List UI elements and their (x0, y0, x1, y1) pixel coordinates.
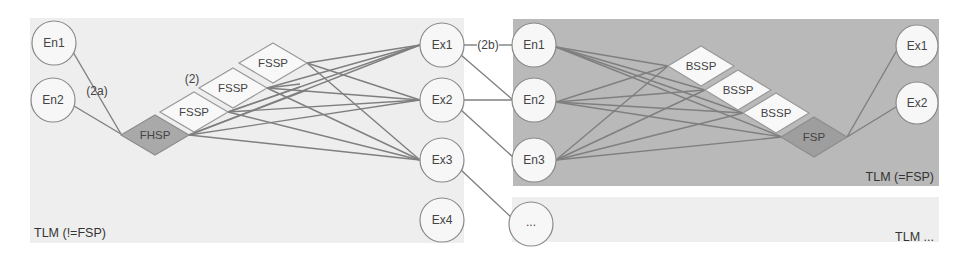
node-label: Ex2 (432, 93, 453, 107)
left-exit-node-ex4[interactable]: Ex4 (420, 198, 464, 242)
node-label: En1 (43, 36, 65, 50)
left-exit-node-ex1[interactable]: Ex1 (420, 23, 464, 67)
annotation-2: (2) (185, 72, 200, 86)
left-panel-label: TLM (!=FSP) (34, 226, 106, 240)
node-label: En3 (523, 153, 545, 167)
right-panel-label: TLM (=FSP) (866, 170, 934, 184)
node-label: ... (526, 215, 536, 229)
left-exit-node-ex3[interactable]: Ex3 (420, 138, 464, 182)
annotation-2a: (2a) (86, 84, 107, 98)
node-label: Ex4 (432, 213, 453, 227)
node-label: En1 (523, 38, 545, 52)
right-entry-node-en3[interactable]: En3 (512, 138, 556, 182)
diamond-label: FSSP (179, 106, 209, 118)
diamond-label: BSSP (723, 84, 754, 96)
bottom-entry-node-more[interactable]: ... (509, 202, 553, 246)
left-exit-node-ex2[interactable]: Ex2 (420, 78, 464, 122)
diamond-label: BSSP (686, 60, 717, 72)
right-entry-node-en2[interactable]: En2 (512, 78, 556, 122)
node-label: Ex3 (432, 153, 453, 167)
node-label: En2 (523, 93, 545, 107)
node-label: Ex2 (907, 96, 928, 110)
bottom-panel-background (512, 197, 939, 242)
diamond-label: FSSP (218, 82, 248, 94)
annotation-2b: (2b) (477, 38, 498, 52)
connector-edges (461, 45, 514, 218)
left-entry-node-en2[interactable]: En2 (31, 78, 75, 122)
node-label: Ex1 (432, 38, 453, 52)
right-exit-node-ex1[interactable]: Ex1 (896, 25, 938, 67)
tlm-process-diagram: En1 En2 FSSP FSSP FSSP FHSP Ex1 Ex2 Ex3 (0, 0, 968, 263)
diamond-label: BSSP (761, 107, 792, 119)
diamond-label: FSSP (258, 57, 288, 69)
diamond-label: FSP (803, 131, 826, 143)
node-label: Ex1 (907, 39, 928, 53)
diamond-label: FHSP (140, 129, 171, 141)
right-exit-node-ex2[interactable]: Ex2 (896, 82, 938, 124)
right-entry-node-en1[interactable]: En1 (512, 23, 556, 67)
bottom-panel-label: TLM ... (895, 230, 934, 244)
left-entry-node-en1[interactable]: En1 (32, 21, 76, 65)
node-label: En2 (42, 93, 64, 107)
